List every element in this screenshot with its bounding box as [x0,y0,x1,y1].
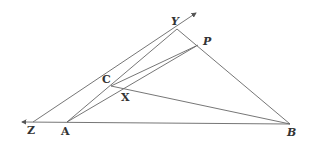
line-CP [111,46,196,86]
label-P: P [203,36,211,47]
line-BZ [22,122,290,124]
line-YB [177,29,290,124]
line-AP [67,45,198,122]
line-ZY [33,13,196,122]
label-C: C [102,74,111,85]
label-Y: Y [171,16,179,27]
line-CB [111,86,290,124]
line-AY [67,29,177,122]
diagram-lines [0,0,314,148]
label-B: B [287,127,296,138]
label-X: X [121,92,130,103]
geometry-diagram: Z A B C X Y P [0,0,314,148]
label-Z: Z [27,125,35,136]
label-A: A [61,126,70,137]
